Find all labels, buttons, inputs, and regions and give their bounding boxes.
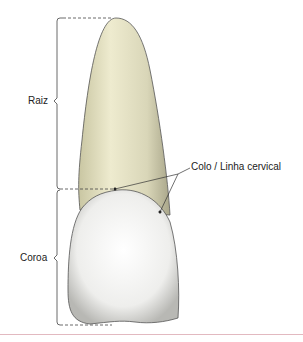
tooth-root <box>79 18 170 215</box>
neck-label: Colo / Linha cervical <box>191 161 281 172</box>
tooth-crown <box>68 190 179 324</box>
crown-label: Coroa <box>20 252 47 263</box>
root-label: Raiz <box>28 95 48 106</box>
bottom-separator <box>0 334 303 335</box>
